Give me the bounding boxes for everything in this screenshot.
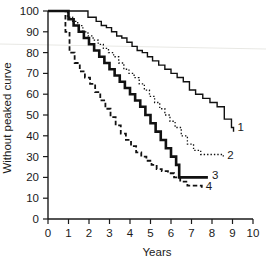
y-tick-label: 60	[26, 88, 39, 100]
series-label-4: 4	[206, 180, 213, 192]
survival-curve-chart: 0102030405060708090100 012345678910 1234…	[0, 0, 266, 262]
x-axis-ticks: 012345678910	[45, 219, 260, 239]
x-tick-label: 6	[168, 227, 174, 239]
curve-series-2	[48, 11, 223, 157]
x-tick-label: 8	[209, 227, 215, 239]
y-tick-label: 0	[33, 213, 39, 225]
y-tick-label: 40	[26, 130, 39, 142]
y-tick-label: 80	[26, 47, 39, 59]
x-tick-label: 10	[247, 227, 260, 239]
y-axis-title: Without peaked curve	[1, 62, 13, 173]
x-tick-label: 5	[147, 227, 153, 239]
y-tick-label: 10	[26, 192, 39, 204]
y-tick-label: 90	[26, 26, 39, 38]
series-label-3: 3	[212, 169, 218, 181]
y-tick-label: 20	[26, 171, 39, 183]
x-tick-label: 2	[86, 227, 92, 239]
curve-series-3	[48, 11, 208, 177]
x-tick-label: 0	[45, 227, 51, 239]
y-tick-label: 100	[20, 5, 39, 17]
curve-series-1	[48, 11, 234, 132]
series-curves	[48, 11, 234, 188]
x-tick-label: 3	[106, 227, 112, 239]
x-axis-title: Years	[143, 246, 172, 258]
series-label-2: 2	[227, 149, 233, 161]
y-tick-label: 70	[26, 67, 39, 79]
x-tick-label: 7	[188, 227, 194, 239]
series-end-labels: 1234	[206, 121, 244, 191]
x-tick-label: 1	[65, 227, 71, 239]
series-label-1: 1	[238, 121, 244, 133]
y-tick-label: 50	[26, 109, 39, 121]
x-tick-label: 4	[127, 227, 134, 239]
y-axis-ticks: 0102030405060708090100	[20, 5, 48, 225]
chart-canvas: 0102030405060708090100 012345678910 1234…	[0, 0, 266, 262]
x-tick-label: 9	[229, 227, 235, 239]
y-tick-label: 30	[26, 151, 39, 163]
